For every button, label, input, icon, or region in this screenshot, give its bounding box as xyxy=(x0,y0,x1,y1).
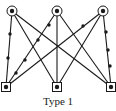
dot-t2-b1-3 xyxy=(14,71,17,74)
dot-t1-b1-1 xyxy=(6,56,9,59)
top-node-t2-center xyxy=(55,9,59,13)
top-node-t1-center xyxy=(10,9,14,13)
dot-t1-b1-0 xyxy=(8,32,11,35)
dot-t2-b1-1 xyxy=(36,38,39,41)
top-node-t3-center xyxy=(101,9,105,13)
diagram-caption: Type 1 xyxy=(0,95,116,107)
edge-t3-b1 xyxy=(6,11,103,87)
dot-t3-b3-0 xyxy=(104,30,107,33)
edge-t1-b2 xyxy=(12,11,57,87)
subdivision-dots xyxy=(6,23,111,74)
dot-t3-b3-1 xyxy=(106,48,109,51)
bottom-node-b2-center xyxy=(55,85,59,89)
dot-t2-b1-2 xyxy=(23,58,26,61)
edge-t2-b3 xyxy=(57,11,111,87)
edge-t2-b1 xyxy=(6,11,57,87)
edge-t1-b1 xyxy=(6,11,12,87)
graph-edges xyxy=(6,11,111,87)
dot-t3-b1-0 xyxy=(81,24,84,27)
bottom-node-b3-center xyxy=(109,85,113,89)
dot-t2-b1-0 xyxy=(47,23,50,26)
dot-t3-b3-2 xyxy=(108,64,111,67)
bottom-node-b1-center xyxy=(4,85,8,89)
bipartite-graph-diagram xyxy=(0,0,116,92)
